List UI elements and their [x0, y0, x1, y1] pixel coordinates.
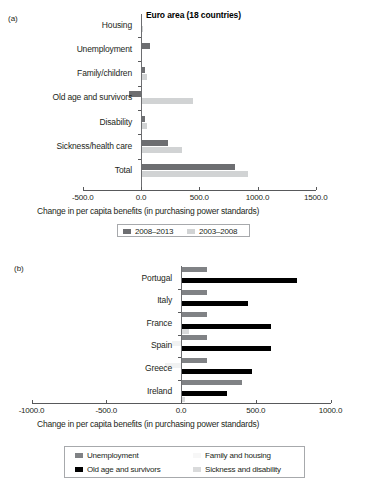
category-label-greece: Greece — [145, 363, 172, 373]
bar-france-sickness-and-disability — [181, 329, 189, 334]
bar-old-age-and-survivors-2003-2008 — [141, 98, 193, 104]
category-label-sickness-health-care: Sickness/health care — [57, 141, 132, 151]
zero-axis-line — [141, 14, 142, 190]
category-label-disability: Disability — [99, 117, 132, 127]
bar-greece-unemployment — [181, 358, 207, 363]
panel-b-plot: PortugalItalyFranceSpainGreeceIreland-10… — [0, 255, 367, 420]
bar-spain-family-and-housing — [172, 341, 181, 346]
x-tick-label: -1000.0 — [2, 406, 62, 415]
panel-b-legend: UnemploymentOld age and survivorsFamily … — [64, 446, 305, 478]
category-label-total: Total — [115, 165, 132, 175]
bar-portugal-unemployment — [181, 267, 207, 272]
legend-swatch-2008-2013 — [123, 229, 131, 234]
category-label-ireland: Ireland — [147, 386, 172, 396]
x-axis-tick — [32, 400, 33, 403]
bar-france-old-age-and-survivors — [181, 324, 271, 329]
x-axis-title: Change in per capita benefits (in purcha… — [37, 206, 259, 216]
panel-a-legend: 2008–20132003–2008 — [117, 224, 250, 237]
x-axis-tick — [199, 187, 200, 190]
legend-swatch-unemployment — [75, 453, 83, 458]
bar-italy-old-age-and-survivors — [181, 301, 248, 306]
bar-spain-old-age-and-survivors — [181, 346, 271, 351]
legend-swatch-sickness-and-disability — [193, 467, 201, 472]
bar-total-2003-2008 — [141, 171, 248, 177]
x-axis-line — [32, 403, 331, 404]
bar-ireland-old-age-and-survivors — [181, 391, 227, 396]
bar-sickness-health-care-2003-2008 — [141, 147, 182, 153]
x-tick-label: 0.0 — [151, 406, 211, 415]
bar-unemployment-2008-2013 — [141, 43, 150, 49]
legend-label-2008-2013: 2008–2013 — [135, 227, 173, 236]
x-axis-title: Change in per capita benefits (in purcha… — [37, 419, 259, 429]
x-axis-tick — [83, 187, 84, 190]
x-tick-label: 1500.0 — [286, 193, 346, 202]
x-tick-label: 1000.0 — [228, 193, 288, 202]
panel-a: (a) Euro area (18 countries) HousingUnem… — [0, 0, 367, 240]
legend-item-sickness-and-disability: Sickness and disability — [193, 465, 281, 474]
bar-france-unemployment — [181, 312, 207, 317]
bar-spain-unemployment — [181, 335, 207, 340]
legend-item-old-age-and-survivors: Old age and survivors — [75, 465, 161, 474]
x-axis-tick — [331, 400, 332, 403]
bar-greece-old-age-and-survivors — [181, 369, 252, 374]
category-label-family-children: Family/children — [77, 68, 132, 78]
x-axis-line — [83, 190, 316, 191]
x-tick-label: 500.0 — [226, 406, 286, 415]
legend-label-sickness-and-disability: Sickness and disability — [205, 465, 281, 474]
category-label-portugal: Portugal — [142, 273, 172, 283]
legend-swatch-family-and-housing — [193, 453, 201, 458]
bar-portugal-old-age-and-survivors — [181, 278, 297, 283]
legend-label-old-age-and-survivors: Old age and survivors — [87, 465, 161, 474]
bar-italy-unemployment — [181, 290, 207, 295]
x-tick-label: 1000.0 — [301, 406, 361, 415]
category-label-old-age-and-survivors: Old age and survivors — [52, 92, 132, 102]
legend-label-unemployment: Unemployment — [87, 451, 138, 460]
legend-label-family-and-housing: Family and housing — [205, 451, 271, 460]
bar-ireland-unemployment — [181, 380, 242, 385]
x-axis-tick — [316, 187, 317, 190]
legend-item-unemployment: Unemployment — [75, 451, 138, 460]
legend-swatch-old-age-and-survivors — [75, 467, 83, 472]
x-tick-label: 500.0 — [169, 193, 229, 202]
zero-axis-line — [181, 266, 182, 403]
category-label-france: France — [146, 318, 172, 328]
x-tick-label: -500.0 — [76, 406, 136, 415]
legend-item-family-and-housing: Family and housing — [193, 451, 271, 460]
x-tick-label: -500.0 — [53, 193, 113, 202]
x-axis-tick — [256, 400, 257, 403]
legend-item-2008-2013: 2008–2013 — [123, 227, 173, 236]
x-axis-tick — [181, 400, 182, 403]
x-tick-label: 0.0 — [111, 193, 171, 202]
category-label-italy: Italy — [157, 295, 172, 305]
category-label-spain: Spain — [151, 340, 172, 350]
legend-item-2003-2008: 2003–2008 — [187, 227, 237, 236]
category-label-unemployment: Unemployment — [77, 44, 132, 54]
legend-swatch-2003-2008 — [187, 229, 195, 234]
legend-label-2003-2008: 2003–2008 — [199, 227, 237, 236]
bar-sickness-health-care-2008-2013 — [141, 140, 168, 146]
bar-total-2008-2013 — [141, 164, 235, 170]
panel-a-plot: HousingUnemploymentFamily/childrenOld ag… — [0, 0, 367, 215]
x-axis-tick — [258, 187, 259, 190]
category-label-housing: Housing — [102, 20, 132, 30]
x-axis-tick — [141, 187, 142, 190]
x-axis-tick — [106, 400, 107, 403]
